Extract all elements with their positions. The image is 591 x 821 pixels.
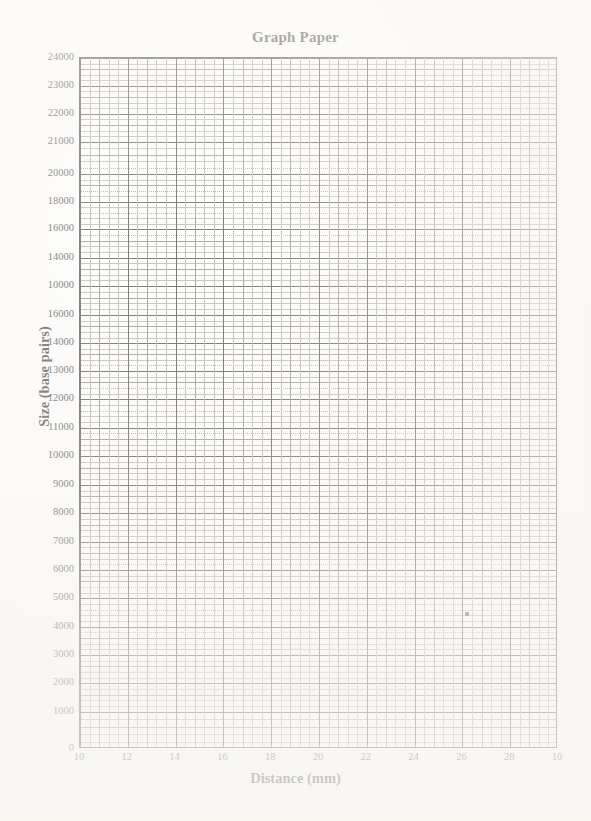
horizontal-gridline-minor: [80, 224, 556, 225]
horizontal-gridline-minor: [80, 75, 556, 76]
vertical-gridline-minor: [529, 58, 530, 747]
horizontal-gridline-major: [80, 258, 556, 259]
horizontal-gridline-minor: [80, 422, 556, 423]
horizontal-gridline-minor: [80, 553, 556, 554]
horizontal-gridline-minor: [80, 742, 556, 743]
horizontal-gridline-minor: [80, 491, 556, 492]
x-axis-title: Distance (mm): [0, 770, 591, 787]
horizontal-gridline-major: [80, 343, 556, 344]
horizontal-gridline-minor: [80, 502, 556, 503]
horizontal-gridline-minor: [80, 593, 556, 594]
horizontal-gridline-minor: [80, 661, 556, 662]
horizontal-gridline-minor: [80, 196, 556, 197]
horizontal-gridline-minor: [80, 246, 556, 247]
horizontal-gridline-minor: [80, 439, 556, 440]
horizontal-gridline-major: [80, 627, 556, 628]
vertical-gridline-minor: [482, 58, 483, 747]
horizontal-gridline-minor: [80, 706, 556, 707]
horizontal-gridline-minor: [80, 604, 556, 605]
horizontal-gridline-major: [80, 142, 556, 143]
horizontal-gridline-minor: [80, 64, 556, 65]
vertical-gridline-minor: [166, 58, 167, 747]
vertical-gridline-major: [510, 58, 511, 747]
horizontal-gridline-minor: [80, 581, 556, 582]
y-axis-tick-label: 14000: [48, 252, 74, 263]
horizontal-gridline-minor: [80, 252, 556, 253]
x-axis-tick-label: 24: [394, 752, 434, 763]
y-axis-tick-label: 5000: [53, 592, 74, 603]
horizontal-gridline-major: [80, 655, 556, 656]
y-axis-tick-label: 4000: [53, 621, 74, 632]
horizontal-gridline-minor: [80, 411, 556, 412]
horizontal-gridline-minor: [80, 292, 556, 293]
y-axis-tick-label: 22000: [48, 108, 74, 119]
vertical-gridline-minor: [453, 58, 454, 747]
horizontal-gridline-minor: [80, 131, 556, 132]
vertical-gridline-minor: [195, 58, 196, 747]
vertical-gridline-minor: [424, 58, 425, 747]
horizontal-gridline-minor: [80, 97, 556, 98]
y-axis-tick-label: 11000: [48, 422, 74, 433]
vertical-gridline-minor: [348, 58, 349, 747]
y-axis-tick-label: 18000: [48, 196, 74, 207]
x-axis-tick-label: 28: [489, 752, 529, 763]
y-axis-tick-label: 16000: [48, 309, 74, 320]
vertical-gridline-minor: [233, 58, 234, 747]
vertical-gridline-minor: [290, 58, 291, 747]
horizontal-gridline-minor: [80, 108, 556, 109]
horizontal-gridline-minor: [80, 309, 556, 310]
vertical-gridline-minor: [309, 58, 310, 747]
horizontal-gridline-minor: [80, 689, 556, 690]
horizontal-gridline-minor: [80, 321, 556, 322]
horizontal-gridline-major: [80, 683, 556, 684]
horizontal-gridline-minor: [80, 508, 556, 509]
horizontal-gridline-minor: [80, 473, 556, 474]
horizontal-gridline-minor: [80, 576, 556, 577]
horizontal-gridline-minor: [80, 700, 556, 701]
horizontal-gridline-minor: [80, 168, 556, 169]
horizontal-gridline-minor: [80, 275, 556, 276]
y-axis-tick-label: 7000: [53, 536, 74, 547]
vertical-gridline-major: [367, 58, 368, 747]
y-axis-tick-label: 2000: [53, 677, 74, 688]
vertical-gridline-minor: [434, 58, 435, 747]
horizontal-gridline-minor: [80, 185, 556, 186]
horizontal-gridline-major: [80, 485, 556, 486]
vertical-gridline-minor: [185, 58, 186, 747]
horizontal-gridline-minor: [80, 338, 556, 339]
horizontal-gridline-minor: [80, 360, 556, 361]
horizontal-gridline-minor: [80, 180, 556, 181]
vertical-gridline-minor: [491, 58, 492, 747]
horizontal-gridline-minor: [80, 280, 556, 281]
vertical-gridline-major: [223, 58, 224, 747]
horizontal-gridline-minor: [80, 388, 556, 389]
horizontal-gridline-minor: [80, 303, 556, 304]
vertical-gridline-minor: [118, 58, 119, 747]
horizontal-gridline-major: [80, 456, 556, 457]
horizontal-gridline-major: [80, 428, 556, 429]
horizontal-gridline-minor: [80, 644, 556, 645]
horizontal-gridline-minor: [80, 547, 556, 548]
y-axis-tick-label: 10000: [48, 450, 74, 461]
horizontal-gridline-minor: [80, 564, 556, 565]
horizontal-gridline-minor: [80, 354, 556, 355]
data-point-marker[interactable]: [465, 612, 469, 616]
horizontal-gridline-minor: [80, 155, 556, 156]
horizontal-gridline-minor: [80, 161, 556, 162]
horizontal-gridline-minor: [80, 559, 556, 560]
vertical-gridline-minor: [300, 58, 301, 747]
y-axis-tick-label: 21000: [48, 136, 74, 147]
horizontal-gridline-major: [80, 399, 556, 400]
vertical-gridline-minor: [520, 58, 521, 747]
horizontal-gridline-minor: [80, 610, 556, 611]
horizontal-gridline-major: [80, 371, 556, 372]
x-axis-tick-label: 14: [155, 752, 195, 763]
x-axis-tick-label: 12: [107, 752, 147, 763]
vertical-gridline-minor: [147, 58, 148, 747]
horizontal-gridline-minor: [80, 349, 556, 350]
y-axis-tick-label: 23000: [48, 80, 74, 91]
x-axis-tick-label: 20: [298, 752, 338, 763]
y-axis-tick-label: 24000: [48, 52, 74, 63]
horizontal-gridline-minor: [80, 103, 556, 104]
horizontal-gridline-minor: [80, 416, 556, 417]
